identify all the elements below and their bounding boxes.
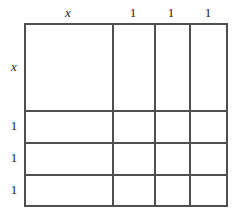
row-label-2: 1	[3, 151, 25, 164]
grid-vertical-line-1	[112, 23, 114, 207]
grid-cell-r3-c1[interactable]	[112, 174, 154, 207]
grid-cell-r0-c2[interactable]	[154, 23, 189, 110]
grid-horizontal-line-2	[24, 142, 228, 144]
grid-cell-r0-c0[interactable]	[24, 23, 112, 110]
row-label-0: x	[3, 60, 25, 73]
grid-cell-r1-c2[interactable]	[154, 110, 189, 142]
grid-cell-r2-c1[interactable]	[112, 142, 154, 174]
grid-horizontal-line-3	[24, 174, 228, 176]
column-label-2: 1	[160, 6, 182, 19]
row-label-3: 1	[3, 183, 25, 196]
column-label-3: 1	[197, 6, 219, 19]
grid-vertical-line-3	[189, 23, 191, 207]
grid-cell-r2-c3[interactable]	[189, 142, 228, 174]
column-label-1: 1	[122, 6, 144, 19]
grid-cell-r2-c0[interactable]	[24, 142, 112, 174]
grid-vertical-line-2	[154, 23, 156, 207]
grid-cell-r1-c0[interactable]	[24, 110, 112, 142]
grid-cell-r3-c2[interactable]	[154, 174, 189, 207]
grid-cell-r3-c3[interactable]	[189, 174, 228, 207]
grid-cell-r3-c0[interactable]	[24, 174, 112, 207]
grid-cell-r0-c1[interactable]	[112, 23, 154, 110]
area-model-figure: x111 x111	[0, 0, 241, 223]
grid-horizontal-line-1	[24, 110, 228, 112]
grid-cell-r0-c3[interactable]	[189, 23, 228, 110]
grid-cell-r1-c3[interactable]	[189, 110, 228, 142]
row-label-1: 1	[3, 119, 25, 132]
column-label-0: x	[57, 6, 79, 19]
grid-cell-r2-c2[interactable]	[154, 142, 189, 174]
grid-cell-r1-c1[interactable]	[112, 110, 154, 142]
